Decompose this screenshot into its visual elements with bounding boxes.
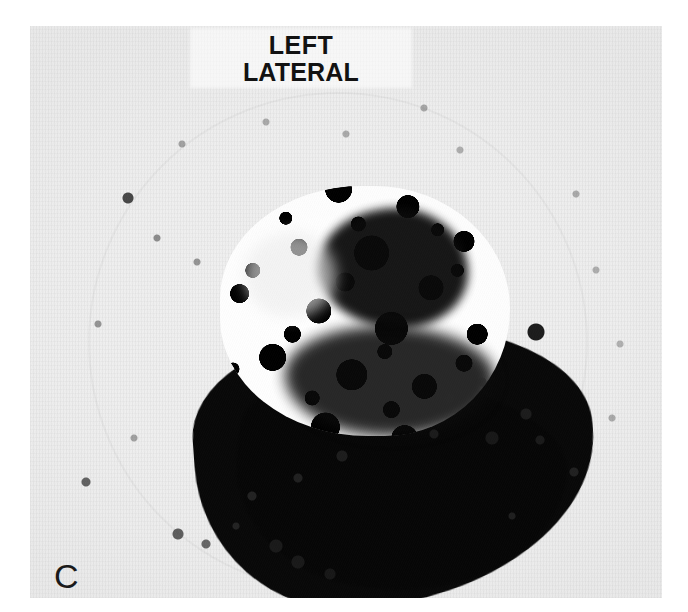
scintigram-figure: LEFT LATERAL C: [0, 0, 688, 612]
photopenic-defect: [244, 232, 336, 318]
view-label: LEFT LATERAL: [190, 32, 412, 86]
view-label-line1: LEFT: [190, 32, 412, 59]
scan-image-field: LEFT LATERAL C: [30, 26, 662, 598]
panel-letter: C: [54, 559, 79, 593]
view-label-line2: LATERAL: [190, 59, 412, 86]
